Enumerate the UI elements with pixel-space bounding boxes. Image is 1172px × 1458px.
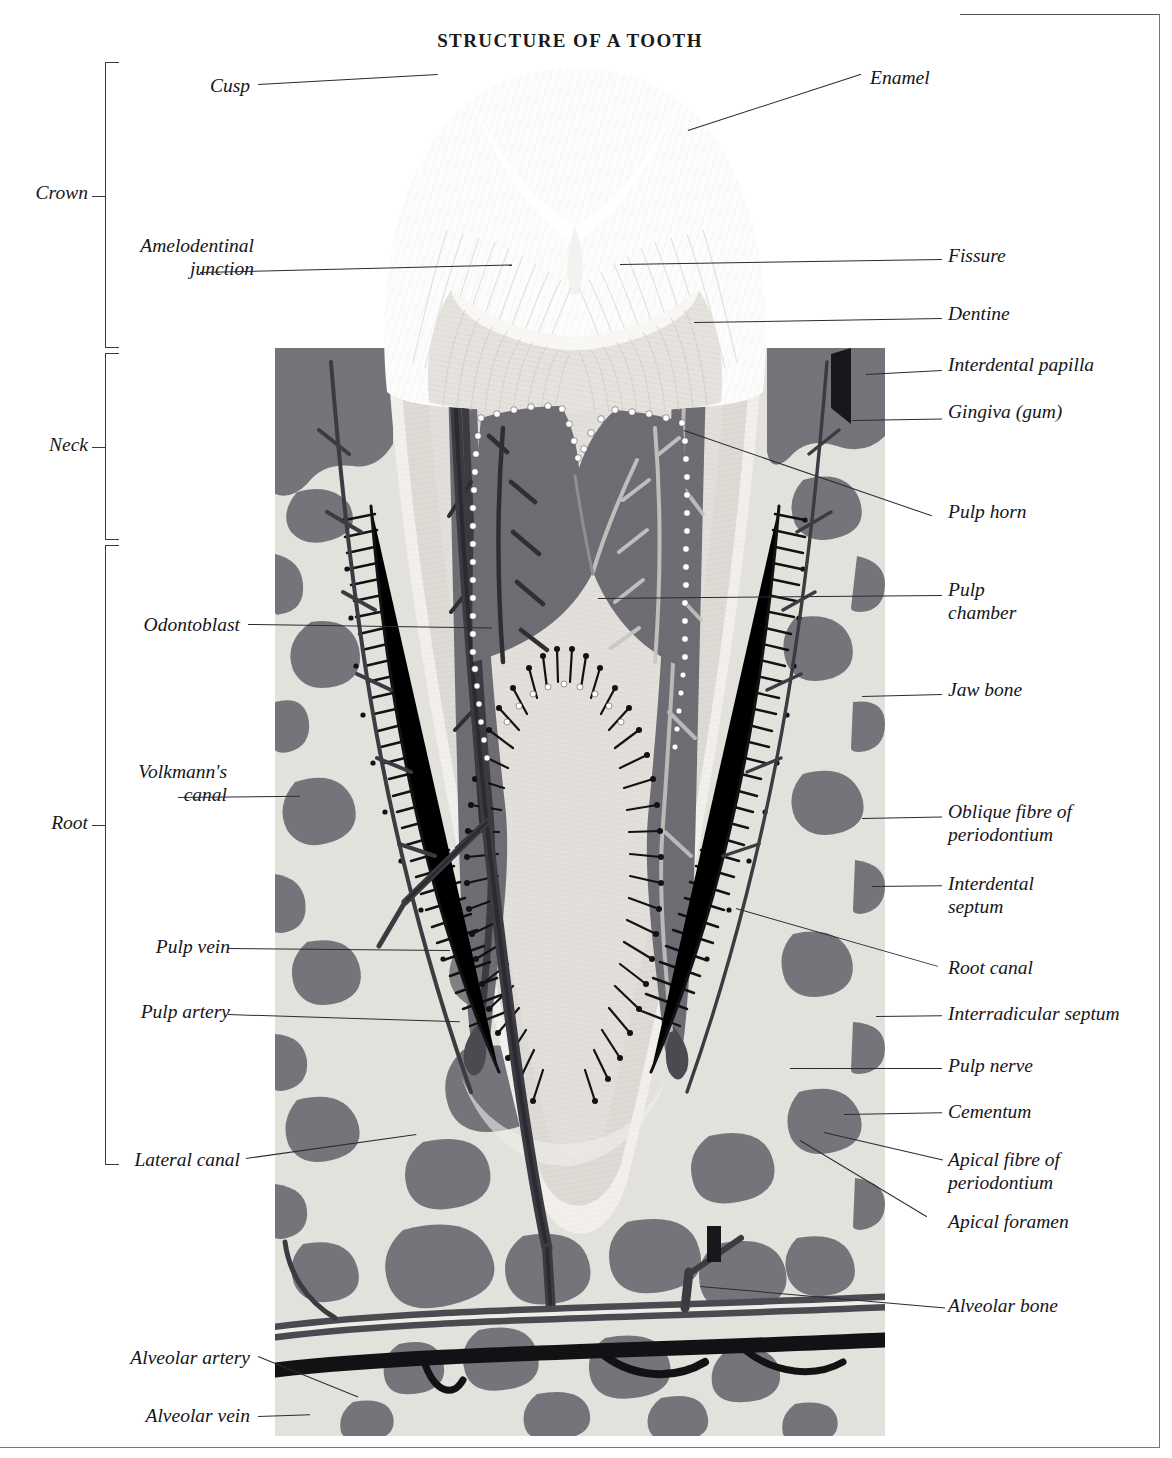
bracket-crown-tick <box>92 196 106 197</box>
bracket-neck-tick <box>92 447 106 448</box>
label-interradicular-septum: Interradicular septum <box>948 1002 1172 1025</box>
label-alveolar-artery: Alveolar artery <box>50 1346 250 1369</box>
label-pulp-horn: Pulp horn <box>948 500 1148 523</box>
leader-interradicular-septum <box>876 1015 942 1017</box>
bracket-root <box>105 545 119 1165</box>
leader-interdental-septum <box>872 885 942 887</box>
label-odontoblast: Odontoblast <box>70 613 240 636</box>
label-alveolar-bone: Alveolar bone <box>948 1294 1148 1317</box>
label-pulp-nerve: Pulp nerve <box>948 1054 1148 1077</box>
label-oblique-fibre: Oblique fibre of periodontium <box>948 800 1168 846</box>
leader-oblique-fibre <box>862 817 942 819</box>
label-fissure: Fissure <box>948 244 1148 267</box>
label-cusp: Cusp <box>120 74 250 97</box>
label-cementum: Cementum <box>948 1100 1148 1123</box>
label-apical-foramen: Apical foramen <box>948 1210 1168 1233</box>
leader-gingiva <box>852 418 942 421</box>
label-pulp-vein: Pulp vein <box>80 935 230 958</box>
label-lateral-canal: Lateral canal <box>60 1148 240 1171</box>
bracket-neck <box>105 353 119 540</box>
label-alveolar-vein: Alveolar vein <box>50 1404 250 1427</box>
label-volkmanns-canal: Volkmann's canal <box>62 760 227 806</box>
label-root-canal: Root canal <box>948 956 1148 979</box>
label-interdental-papilla: Interdental papilla <box>948 353 1168 376</box>
bracket-crown <box>105 62 119 348</box>
bracket-crown-label: Crown <box>0 182 88 204</box>
label-interdental-septum: Interdental septum <box>948 872 1148 918</box>
bracket-root-label: Root <box>0 812 88 834</box>
bracket-neck-label: Neck <box>0 434 88 456</box>
page-title: STRUCTURE OF A TOOTH <box>0 30 1140 52</box>
page-border-gap <box>0 13 960 16</box>
label-pulp-chamber: Pulp chamber <box>948 578 1148 624</box>
label-apical-fibre: Apical fibre of periodontium <box>948 1148 1168 1194</box>
label-pulp-artery: Pulp artery <box>70 1000 230 1023</box>
leader-pulp-nerve <box>790 1068 942 1069</box>
label-enamel: Enamel <box>870 66 1070 89</box>
bracket-root-tick <box>92 825 106 826</box>
label-dentine: Dentine <box>948 302 1148 325</box>
label-gingiva: Gingiva (gum) <box>948 400 1168 423</box>
label-amelodentinal-junction: Amelodentinal junction <box>60 234 254 280</box>
label-jaw-bone: Jaw bone <box>948 678 1148 701</box>
